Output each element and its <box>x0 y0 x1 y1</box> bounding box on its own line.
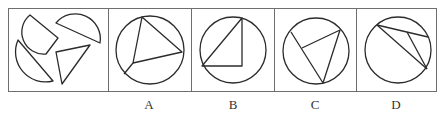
option-a-figure <box>116 16 184 84</box>
option-a-chord <box>124 63 133 74</box>
option-c-lines <box>291 30 340 83</box>
option-b-circle <box>200 17 266 83</box>
question-pieces <box>16 14 101 84</box>
option-d-chord-long <box>377 25 427 69</box>
option-c-figure <box>283 18 349 84</box>
option-a-circle <box>116 16 184 84</box>
option-b-figure <box>200 17 266 83</box>
option-d-circle <box>365 17 431 83</box>
option-d-label[interactable]: D <box>386 97 406 113</box>
option-d-figure <box>365 17 431 83</box>
option-b-label[interactable]: B <box>223 97 243 113</box>
option-d-inner-line <box>407 32 427 69</box>
piece-segment-top-left <box>22 15 58 54</box>
outer-frame <box>9 9 437 92</box>
option-b-triangle <box>202 18 242 66</box>
piece-triangle <box>56 45 90 84</box>
piece-segment-top-right <box>56 14 100 43</box>
piece-segment-bottom-left <box>16 40 53 82</box>
option-a-triangle <box>133 17 182 63</box>
option-c-label[interactable]: C <box>305 97 325 113</box>
option-c-circle <box>283 18 349 84</box>
option-a-label[interactable]: A <box>139 97 159 113</box>
